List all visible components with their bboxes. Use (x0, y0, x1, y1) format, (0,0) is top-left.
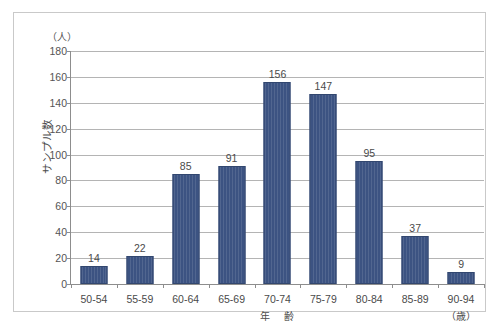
y-tick-label: 180 (33, 45, 67, 57)
x-tick-mark (71, 284, 72, 288)
y-tick-label: 20 (33, 252, 67, 264)
x-tick-mark (484, 284, 485, 288)
x-axis-unit-label: （歳） (431, 308, 491, 323)
bar-value-label: 85 (180, 160, 192, 172)
bar[interactable] (80, 266, 107, 284)
bar-value-label: 14 (88, 252, 100, 264)
bar-value-label: 147 (315, 80, 333, 92)
bar[interactable] (172, 174, 199, 284)
y-axis-tick-labels: 020406080100120140160180 (29, 51, 67, 285)
bar[interactable] (218, 166, 245, 284)
chart-figure: （人） サンプル数 020406080100120140160180 14228… (0, 0, 499, 325)
x-tick-mark (346, 284, 347, 288)
y-axis-unit-label: （人） (47, 29, 77, 44)
x-tick-mark (255, 284, 256, 288)
y-tick-label: 0 (33, 278, 67, 290)
figure-frame: （人） サンプル数 020406080100120140160180 14228… (13, 12, 486, 312)
bar-slot: 22 (117, 51, 163, 284)
bar-value-label: 95 (363, 147, 375, 159)
x-category-label: 90-94 (431, 293, 491, 305)
bar-value-label: 9 (458, 258, 464, 270)
x-tick-mark (117, 284, 118, 288)
bar-slot: 156 (255, 51, 301, 284)
bar-slot: 95 (346, 51, 392, 284)
bar[interactable] (126, 256, 153, 284)
bar-value-label: 156 (269, 68, 287, 80)
x-tick-mark (300, 284, 301, 288)
bar[interactable] (448, 272, 475, 284)
x-tick-mark (163, 284, 164, 288)
y-tick-label: 80 (33, 174, 67, 186)
y-tick-label: 160 (33, 71, 67, 83)
plot-area: 1422859115614795379 50-5455-5960-6465-69… (71, 51, 484, 284)
bar-slot: 9 (438, 51, 484, 284)
y-tick-label: 60 (33, 200, 67, 212)
y-tick-label: 100 (33, 149, 67, 161)
x-tick-mark (209, 284, 210, 288)
x-tick-mark (392, 284, 393, 288)
bar-slot: 91 (209, 51, 255, 284)
bar[interactable] (264, 82, 291, 284)
bar-slot: 14 (71, 51, 117, 284)
y-tick-label: 40 (33, 226, 67, 238)
bar[interactable] (310, 94, 337, 284)
bar-slot: 147 (300, 51, 346, 284)
bar-slot: 37 (392, 51, 438, 284)
bar-value-label: 91 (226, 152, 238, 164)
bar[interactable] (402, 236, 429, 284)
gridline (71, 284, 484, 285)
bar-slot: 85 (163, 51, 209, 284)
y-tick-label: 120 (33, 123, 67, 135)
bar-value-label: 37 (409, 222, 421, 234)
bar[interactable] (356, 161, 383, 284)
y-tick-label: 140 (33, 97, 67, 109)
bar-value-label: 22 (134, 242, 146, 254)
x-axis-title: 年 齢 (248, 308, 308, 323)
x-tick-mark (438, 284, 439, 288)
